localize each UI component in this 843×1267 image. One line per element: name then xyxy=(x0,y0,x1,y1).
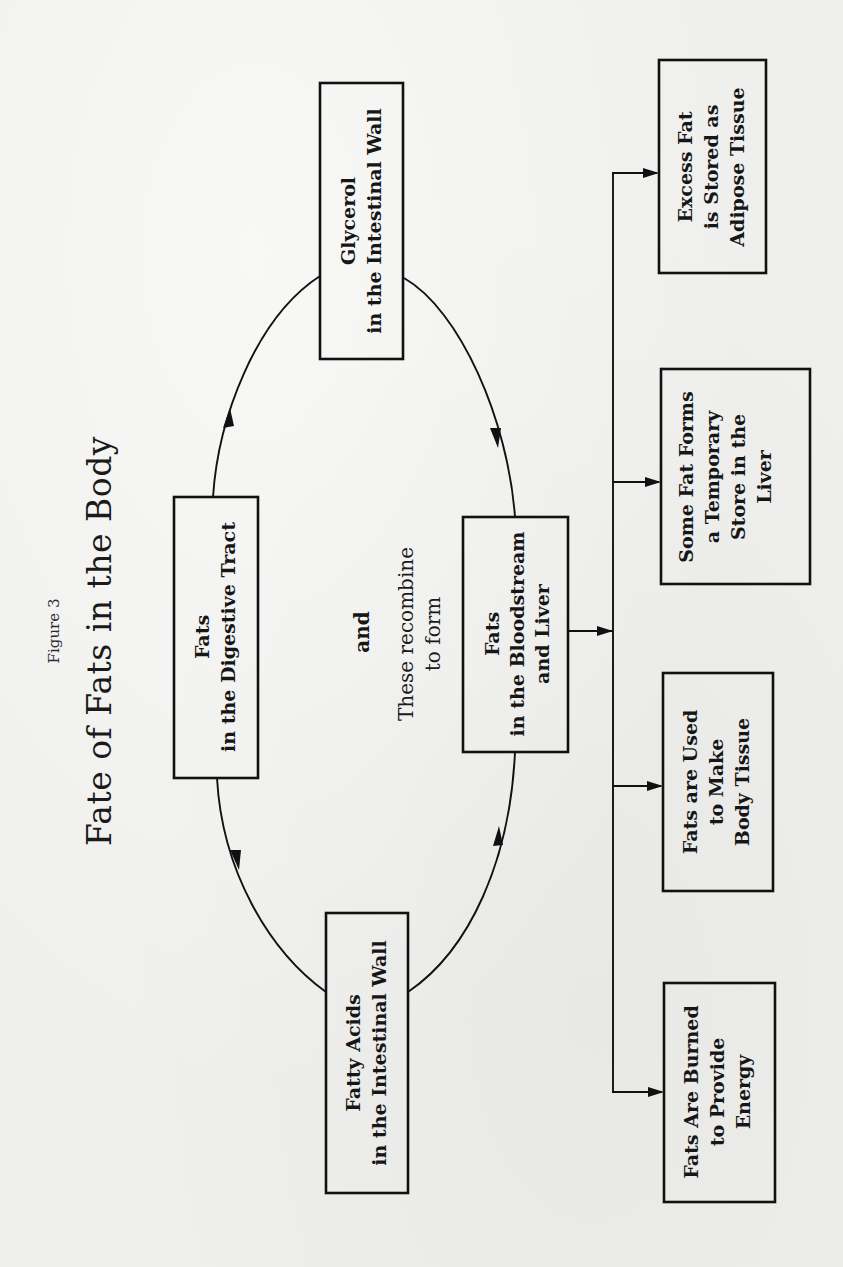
arc-digestive-to-glycerol xyxy=(213,276,320,497)
node-liver-temporary-store: Some Fat Forms a Temporary Store in the … xyxy=(661,369,810,584)
node-digestive-tract: Fats in the Digestive Tract xyxy=(174,497,258,778)
figure-label: Figure 3 xyxy=(45,599,63,664)
arrowhead-right-icon xyxy=(645,477,661,487)
node-label: Fats xyxy=(191,615,213,659)
annotation-and: and xyxy=(350,611,374,653)
figure-title: Fate of Fats in the Body xyxy=(80,436,119,846)
arc-fatty-acids-to-bloodstream xyxy=(408,752,515,992)
node-label: a Temporary xyxy=(701,410,723,543)
node-adipose-storage: Excess Fat is Stored as Adipose Tissue xyxy=(659,60,766,273)
node-label: Fats Are Burned xyxy=(680,1005,702,1178)
arc-glycerol-to-bloodstream xyxy=(404,278,515,517)
node-body-tissue: Fats are Used to Make Body Tissue xyxy=(663,673,773,891)
node-label: is Stored as xyxy=(700,105,722,230)
arrowhead-up-icon xyxy=(493,826,503,846)
arrowhead-right-icon xyxy=(597,626,613,636)
annotation-recombine: These recombine xyxy=(394,547,418,721)
node-glycerol: Glycerol in the Intestinal Wall xyxy=(320,83,403,359)
node-label: Glycerol xyxy=(337,177,359,265)
node-label: Excess Fat xyxy=(674,111,696,222)
arrowhead-up-icon xyxy=(223,408,234,428)
arrowhead-right-icon xyxy=(648,1087,664,1097)
node-label: Liver xyxy=(753,449,775,504)
fate-of-fats-diagram: Figure 3 Fate of Fats in the Body Fats i… xyxy=(0,0,843,1267)
node-label: Fats xyxy=(481,612,503,656)
node-label: Energy xyxy=(732,1054,754,1130)
node-label: to Provide xyxy=(706,1038,728,1147)
node-label: Fatty Acids xyxy=(342,994,364,1111)
node-label: to Make xyxy=(705,739,727,826)
node-label: Some Fat Forms xyxy=(675,391,697,562)
node-label: in the Intestinal Wall xyxy=(368,940,390,1166)
node-label: Fats are Used xyxy=(679,710,701,855)
node-fatty-acids: Fatty Acids in the Intestinal Wall xyxy=(326,913,408,1193)
node-bloodstream-liver: Fats in the Bloodstream and Liver xyxy=(463,517,568,752)
arrowhead-right-icon xyxy=(643,168,659,178)
node-energy: Fats Are Burned to Provide Energy xyxy=(664,983,775,1202)
arc-digestive-to-fatty-acids xyxy=(217,778,326,992)
node-label: in the Intestinal Wall xyxy=(363,108,385,334)
arrowhead-down-icon xyxy=(490,428,501,448)
node-label: and Liver xyxy=(531,583,553,684)
node-label: Adipose Tissue xyxy=(726,87,748,247)
annotation-to-form: to form xyxy=(421,597,445,671)
node-label: Body Tissue xyxy=(731,718,753,846)
node-label: Store in the xyxy=(727,414,749,540)
arrowhead-right-icon xyxy=(647,781,663,791)
node-label: in the Bloodstream xyxy=(506,532,528,737)
node-label: in the Digestive Tract xyxy=(217,522,239,752)
